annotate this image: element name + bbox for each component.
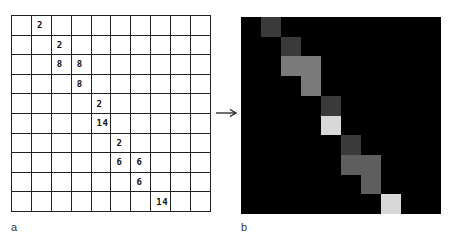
heatmap-cell bbox=[361, 175, 381, 195]
matrix-cell bbox=[91, 74, 111, 94]
matrix-cell bbox=[170, 54, 190, 74]
heatmap-cell bbox=[281, 96, 301, 116]
matrix-cell bbox=[150, 152, 170, 172]
matrix-cell: 6 bbox=[110, 152, 130, 172]
matrix-cell: 14 bbox=[91, 113, 111, 133]
heatmap-cell bbox=[381, 17, 401, 37]
heatmap-cell bbox=[381, 76, 401, 96]
heatmap-cell bbox=[341, 135, 361, 155]
heatmap-cell bbox=[421, 37, 441, 57]
heatmap-cell bbox=[321, 194, 341, 214]
heatmap-cell bbox=[281, 194, 301, 214]
matrix-cell bbox=[71, 113, 91, 133]
matrix-cell bbox=[170, 133, 190, 153]
heatmap-cell bbox=[241, 135, 261, 155]
matrix-cell bbox=[31, 35, 51, 55]
heatmap-cell bbox=[261, 96, 281, 116]
matrix-cell bbox=[130, 113, 150, 133]
panel-label-b: b bbox=[241, 221, 247, 233]
heatmap-cell bbox=[301, 116, 321, 136]
heatmap-cell bbox=[401, 37, 421, 57]
heatmap-cell bbox=[261, 175, 281, 195]
matrix-cell bbox=[170, 172, 190, 192]
matrix-cell bbox=[11, 35, 31, 55]
right-arrow-icon bbox=[216, 108, 238, 118]
heatmap-cell bbox=[361, 135, 381, 155]
heatmap-cell bbox=[421, 76, 441, 96]
matrix-cell: 6 bbox=[130, 172, 150, 192]
matrix-cell bbox=[31, 172, 51, 192]
heatmap-cell bbox=[281, 37, 301, 57]
matrix-cell bbox=[31, 93, 51, 113]
heatmap-cell bbox=[281, 56, 301, 76]
heatmap-cell bbox=[361, 194, 381, 214]
matrix-cell bbox=[110, 74, 130, 94]
heatmap-cell bbox=[261, 135, 281, 155]
heatmap-cell bbox=[301, 96, 321, 116]
matrix-cell bbox=[91, 191, 111, 211]
matrix-cell bbox=[130, 74, 150, 94]
matrix-cell bbox=[170, 152, 190, 172]
heatmap-cell bbox=[401, 135, 421, 155]
matrix-cell bbox=[51, 113, 71, 133]
matrix-cell bbox=[170, 15, 190, 35]
matrix-cell bbox=[11, 133, 31, 153]
matrix-cell bbox=[51, 74, 71, 94]
matrix-cell: 14 bbox=[150, 191, 170, 211]
heatmap-cell bbox=[401, 194, 421, 214]
matrix-cell bbox=[130, 93, 150, 113]
heatmap-cell bbox=[401, 116, 421, 136]
heatmap-cell bbox=[261, 17, 281, 37]
matrix-cell: 8 bbox=[51, 54, 71, 74]
heatmap-cell bbox=[261, 56, 281, 76]
matrix-cell bbox=[110, 54, 130, 74]
matrix-cell bbox=[91, 133, 111, 153]
heatmap-cell bbox=[361, 37, 381, 57]
matrix-cell bbox=[170, 113, 190, 133]
heatmap-cell bbox=[341, 56, 361, 76]
heatmap-cell bbox=[281, 155, 301, 175]
heatmap-cell bbox=[241, 175, 261, 195]
matrix-cell bbox=[190, 74, 210, 94]
heatmap-cell bbox=[401, 56, 421, 76]
matrix-cell bbox=[110, 35, 130, 55]
heatmap-cell bbox=[421, 17, 441, 37]
matrix-cell bbox=[190, 15, 210, 35]
matrix-cell bbox=[170, 35, 190, 55]
matrix-cell bbox=[11, 191, 31, 211]
heatmap-cell bbox=[261, 116, 281, 136]
heatmap-cell bbox=[321, 116, 341, 136]
matrix-cell bbox=[91, 15, 111, 35]
heatmap-cell bbox=[301, 76, 321, 96]
heatmap-cell bbox=[401, 76, 421, 96]
heatmap-cell bbox=[281, 17, 301, 37]
heatmap-cell bbox=[341, 17, 361, 37]
matrix-cell bbox=[71, 152, 91, 172]
heatmap-cell bbox=[401, 155, 421, 175]
heatmap-cell bbox=[421, 135, 441, 155]
matrix-cell bbox=[51, 15, 71, 35]
matrix-cell bbox=[190, 133, 210, 153]
heatmap-cell bbox=[261, 194, 281, 214]
heatmap-cell bbox=[401, 96, 421, 116]
heatmap-cell bbox=[321, 135, 341, 155]
matrix-cell bbox=[11, 93, 31, 113]
heatmap-cell bbox=[321, 17, 341, 37]
heatmap-cell bbox=[341, 76, 361, 96]
matrix-cell bbox=[11, 113, 31, 133]
matrix-cell bbox=[170, 93, 190, 113]
heatmap-cell bbox=[301, 175, 321, 195]
matrix-cell bbox=[150, 172, 170, 192]
matrix-cell bbox=[11, 172, 31, 192]
matrix-cell bbox=[110, 191, 130, 211]
heatmap-cell bbox=[341, 96, 361, 116]
matrix-cell bbox=[190, 35, 210, 55]
matrix-cell bbox=[110, 113, 130, 133]
matrix-cell bbox=[11, 152, 31, 172]
matrix-cell bbox=[190, 152, 210, 172]
matrix-cell: 2 bbox=[31, 15, 51, 35]
matrix-cell: 8 bbox=[71, 74, 91, 94]
heatmap-cell bbox=[421, 175, 441, 195]
matrix-cell bbox=[91, 172, 111, 192]
heatmap-cell bbox=[381, 96, 401, 116]
